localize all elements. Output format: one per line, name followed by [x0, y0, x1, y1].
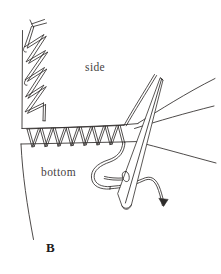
- label-bottom: bottom: [41, 166, 76, 178]
- label-side: side: [85, 61, 105, 73]
- diagram-canvas: [0, 0, 221, 274]
- bottom-panel-fabric-edge: [21, 142, 216, 240]
- panel-letter-label: B: [46, 240, 55, 256]
- zigzag-stitch-left-seam: [23, 20, 47, 121]
- side-panel-fabric-edge: [22, 31, 215, 129]
- stitching-diagram-figure: side bottom B: [0, 0, 221, 274]
- thread-direction-arrow: [159, 198, 168, 206]
